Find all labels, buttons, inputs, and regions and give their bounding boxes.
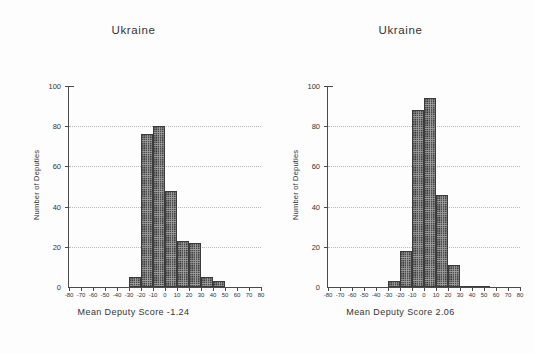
x-axis-tick-label: -50 <box>101 292 110 298</box>
y-axis-tick <box>65 247 69 248</box>
x-axis-tick-label: -50 <box>360 292 369 298</box>
panel-title: Ukraine <box>267 24 534 36</box>
histogram-bar <box>424 98 436 287</box>
x-axis-tick-label: 70 <box>246 292 253 298</box>
x-axis-tick-label: -60 <box>348 292 357 298</box>
x-axis-tick-label: 0 <box>163 292 166 298</box>
y-axis-label: Number of Deputies <box>291 149 300 219</box>
histogram-bar <box>448 265 460 287</box>
plot-area: 020406080100-80-70-60-50-40-30-20-100102… <box>68 86 261 288</box>
x-axis-tick <box>472 287 473 291</box>
x-axis-tick-label: -20 <box>396 292 405 298</box>
x-axis-tick <box>508 287 509 291</box>
y-axis-label: Number of Deputies <box>32 149 41 219</box>
x-axis-tick-label: -30 <box>125 292 134 298</box>
x-axis-tick <box>460 287 461 291</box>
x-axis-tick <box>105 287 106 291</box>
x-axis-tick <box>189 287 190 291</box>
x-axis-tick <box>249 287 250 291</box>
x-axis-tick-label: 60 <box>234 292 241 298</box>
x-axis-tick-label: 10 <box>433 292 440 298</box>
x-axis-tick <box>117 287 118 291</box>
x-axis-tick <box>177 287 178 291</box>
x-axis-tick <box>484 287 485 291</box>
x-axis-tick <box>165 287 166 291</box>
x-axis-tick <box>129 287 130 291</box>
y-axis-tick-label: 100 <box>41 82 61 91</box>
x-axis-tick-label: 20 <box>445 292 452 298</box>
plot-area: 020406080100-80-70-60-50-40-30-20-100102… <box>327 86 520 288</box>
y-axis-tick-label: 40 <box>41 202 61 211</box>
histogram-bar <box>436 195 448 287</box>
x-axis-tick <box>69 287 70 291</box>
y-axis-tick-label: 80 <box>300 122 320 131</box>
x-axis-tick <box>364 287 365 291</box>
histogram-bar <box>412 110 424 287</box>
x-axis-tick-label: -40 <box>372 292 381 298</box>
histogram-bar <box>388 281 400 287</box>
x-axis-tick <box>93 287 94 291</box>
x-axis-tick <box>81 287 82 291</box>
x-axis-tick <box>201 287 202 291</box>
x-axis-label: Mean Deputy Score -1.24 <box>0 307 267 317</box>
x-axis-tick-label: 0 <box>422 292 425 298</box>
x-axis-tick-label: 30 <box>198 292 205 298</box>
x-axis-tick <box>141 287 142 291</box>
x-axis-tick-label: -30 <box>384 292 393 298</box>
histogram-bar <box>189 243 201 287</box>
x-axis-tick-label: 60 <box>493 292 500 298</box>
y-axis-tick-label: 40 <box>300 202 320 211</box>
x-axis-tick <box>400 287 401 291</box>
x-axis-tick <box>225 287 226 291</box>
y-axis-tick-label: 20 <box>300 242 320 251</box>
panel-title: Ukraine <box>0 24 267 36</box>
panel-right: Ukraine Number of Deputies 020406080100-… <box>267 0 534 353</box>
y-axis-tick <box>65 207 69 208</box>
x-axis-tick <box>328 287 329 291</box>
x-axis-tick <box>340 287 341 291</box>
y-axis-tick <box>324 126 328 127</box>
x-axis-tick-label: 30 <box>457 292 464 298</box>
y-axis-tick-label: 0 <box>300 283 320 292</box>
x-axis-tick-label: 50 <box>481 292 488 298</box>
x-axis-tick-label: -10 <box>149 292 158 298</box>
x-axis-tick <box>352 287 353 291</box>
x-axis-tick-label: 50 <box>222 292 229 298</box>
y-axis-tick <box>324 247 328 248</box>
x-axis-tick <box>496 287 497 291</box>
y-axis-tick <box>65 126 69 127</box>
x-axis-tick <box>213 287 214 291</box>
x-axis-tick <box>412 287 413 291</box>
x-axis-tick <box>388 287 389 291</box>
panel-left: Ukraine Number of Deputies 020406080100-… <box>0 0 267 353</box>
y-axis-top-cap <box>69 86 74 87</box>
gridline <box>69 166 261 167</box>
x-axis-tick <box>153 287 154 291</box>
y-axis-tick-label: 100 <box>300 82 320 91</box>
x-axis-tick-label: 80 <box>517 292 524 298</box>
x-axis-tick-label: -10 <box>408 292 417 298</box>
y-axis-tick <box>324 166 328 167</box>
x-axis-tick <box>520 287 521 291</box>
gridline <box>69 126 261 127</box>
x-axis-tick-label: 40 <box>210 292 217 298</box>
x-axis-tick-label: -70 <box>77 292 86 298</box>
histogram-bar <box>177 241 189 287</box>
histogram-bar <box>129 277 141 287</box>
histogram-bar <box>153 126 165 287</box>
y-axis-tick-label: 20 <box>41 242 61 251</box>
y-axis-tick <box>324 207 328 208</box>
x-axis-tick <box>261 287 262 291</box>
x-axis-tick-label: 40 <box>469 292 476 298</box>
histogram-bar <box>201 277 213 287</box>
histogram-bar <box>213 281 225 287</box>
histogram-bar <box>165 191 177 287</box>
histogram-bar <box>141 134 153 287</box>
y-axis-tick <box>65 166 69 167</box>
x-axis-tick <box>436 287 437 291</box>
x-axis-tick-label: 20 <box>186 292 193 298</box>
x-axis-tick-label: 70 <box>505 292 512 298</box>
x-axis-tick <box>376 287 377 291</box>
x-axis-tick-label: -80 <box>324 292 333 298</box>
y-axis-tick-label: 80 <box>41 122 61 131</box>
